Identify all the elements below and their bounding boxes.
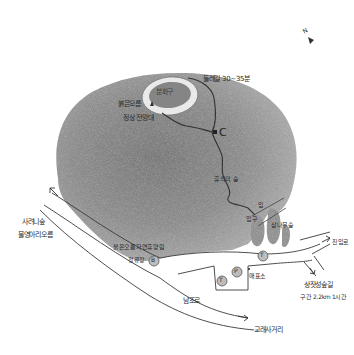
south-road-label: 남조로 (183, 298, 200, 305)
forest-trail-label: 상잣성숲길 (304, 282, 333, 289)
toilet-marker-label: T (219, 277, 222, 283)
arrow-northwest-icon (50, 188, 58, 196)
summit-name-label: 붉은오름 (118, 101, 141, 108)
ticket-office-dot (248, 268, 250, 270)
entrance-marker-label: 입 (258, 202, 264, 208)
ticket-office-label: 매표소 (249, 273, 266, 279)
bus-marker-label: B (151, 257, 155, 263)
checkpoint-c-marker (213, 130, 217, 134)
crater-label: 분화구 (156, 89, 173, 96)
checkpoint-c-label: C (219, 127, 226, 138)
rest-area-label: 휴식의 숲 (214, 176, 238, 182)
parking-marker-label: P (234, 268, 237, 274)
north-road-label-1: 사려니숲 (22, 219, 45, 226)
north-road-label-2: 물영아리오름 (18, 232, 52, 239)
trail-time-label: 둘레길 30~35분 (203, 76, 250, 83)
intersection-label: 교래사거리 (254, 327, 283, 334)
arrow-southeast-icon (310, 268, 315, 274)
bus-stop-label: 정류장 (128, 257, 145, 263)
summit-viewpoint-label: 정상 전망대 (123, 115, 153, 122)
east-road-label: 진입로 (332, 239, 349, 245)
entrance-gate-label: T (260, 252, 263, 258)
recreation-forest-label: 붉은오름자연휴양림 (113, 244, 164, 250)
arrow-east-south-icon (238, 315, 248, 321)
arrow-east-icon (322, 236, 330, 242)
trail-entrance-label: 입구 (246, 216, 257, 222)
oreum-trail-map (0, 0, 354, 355)
forest-trail-info-label: 구간 2.2km 1시간 (300, 294, 347, 300)
forest-stop-label: 삼나무숲 (271, 222, 294, 228)
north-arrow-icon (308, 37, 314, 44)
